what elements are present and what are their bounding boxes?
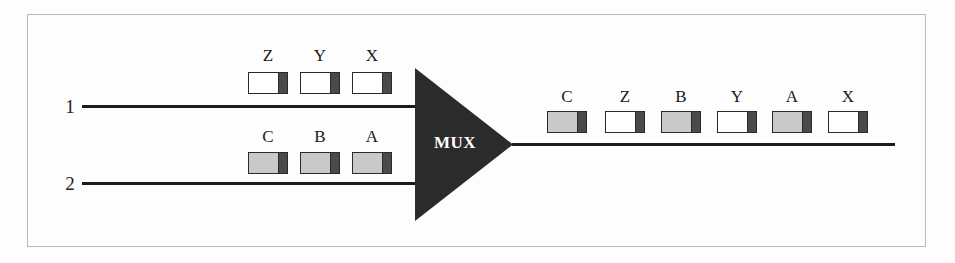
packet-payload: [353, 73, 382, 93]
output-packet-1: [605, 111, 645, 133]
output-packet-label-4: A: [772, 88, 812, 105]
input1-packet-2: [352, 72, 392, 94]
output-packet-label-0: C: [547, 88, 587, 105]
packet-header: [858, 112, 867, 132]
packet-header: [635, 112, 644, 132]
output-packet-0: [547, 111, 587, 133]
input1-packet-label-0: Z: [248, 47, 288, 64]
diagram-canvas: 1 Z Y X 2 C B A MUX C: [0, 0, 955, 263]
packet-header: [278, 153, 287, 173]
input-line-1-label: 1: [62, 97, 78, 116]
packet-payload: [249, 73, 278, 93]
packet-payload: [301, 73, 330, 93]
input2-packet-label-0: C: [248, 128, 288, 145]
output-packet-label-3: Y: [717, 88, 757, 105]
output-packet-label-1: Z: [605, 88, 645, 105]
input1-packet-0: [248, 72, 288, 94]
packet-payload: [718, 112, 747, 132]
packet-payload: [829, 112, 858, 132]
input-line-2-label: 2: [62, 174, 78, 193]
packet-header: [577, 112, 586, 132]
mux-label: MUX: [424, 134, 486, 151]
input2-packet-2: [352, 152, 392, 174]
input2-packet-label-2: A: [352, 128, 392, 145]
input1-packet-label-1: Y: [300, 47, 340, 64]
input2-packet-label-1: B: [300, 128, 340, 145]
input-wire-2: [82, 182, 418, 185]
packet-header: [382, 73, 391, 93]
packet-header: [747, 112, 756, 132]
output-packet-5: [828, 111, 868, 133]
input-wire-1: [82, 105, 418, 108]
input2-packet-1: [300, 152, 340, 174]
output-packet-label-5: X: [828, 88, 868, 105]
packet-payload: [662, 112, 691, 132]
packet-payload: [301, 153, 330, 173]
output-packet-4: [772, 111, 812, 133]
packet-payload: [606, 112, 635, 132]
packet-header: [330, 73, 339, 93]
output-wire: [512, 143, 895, 146]
output-packet-3: [717, 111, 757, 133]
packet-payload: [249, 153, 278, 173]
packet-header: [691, 112, 700, 132]
input2-packet-0: [248, 152, 288, 174]
input1-packet-label-2: X: [352, 47, 392, 64]
packet-header: [330, 153, 339, 173]
input1-packet-1: [300, 72, 340, 94]
packet-payload: [353, 153, 382, 173]
packet-payload: [773, 112, 802, 132]
packet-payload: [548, 112, 577, 132]
packet-header: [278, 73, 287, 93]
output-packet-label-2: B: [661, 88, 701, 105]
packet-header: [382, 153, 391, 173]
packet-header: [802, 112, 811, 132]
output-packet-2: [661, 111, 701, 133]
